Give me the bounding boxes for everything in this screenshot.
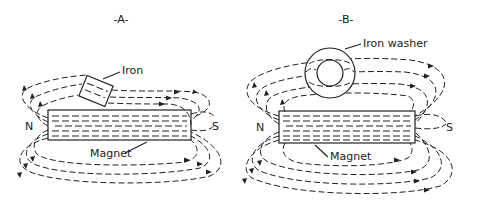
south-pole-label-b: S	[446, 121, 453, 134]
iron-leader-line	[103, 72, 120, 79]
north-pole-label-b: N	[256, 121, 264, 134]
magnet-b-label: Magnet	[330, 150, 372, 163]
iron-washer	[305, 48, 355, 98]
north-pole-label-a: N	[25, 120, 33, 133]
washer-leader-line	[345, 44, 361, 49]
magnet-a-label: Magnet	[90, 147, 132, 160]
iron-washer-label: Iron washer	[363, 37, 428, 50]
figure-a-title: -A-	[114, 13, 129, 26]
figure-b-title: -B-	[338, 13, 353, 26]
magnet-b	[279, 111, 415, 143]
figure-b: -B- Iron washer	[242, 13, 453, 194]
figure-a: -A- Iron	[17, 13, 221, 183]
magnetic-field-diagram: -A- Iron	[0, 0, 479, 209]
south-pole-label-a: S	[212, 120, 219, 133]
iron-block	[79, 76, 113, 107]
figure-a-field-lines-top	[22, 75, 209, 126]
iron-label: Iron	[122, 64, 143, 77]
magnet-b-leader-line	[315, 145, 328, 157]
magnet-a	[48, 110, 191, 140]
